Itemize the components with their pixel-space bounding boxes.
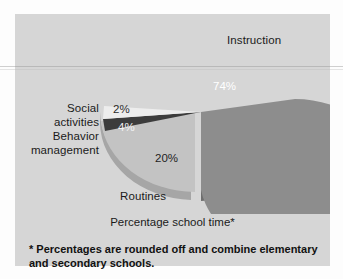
value-label-behavior-management: 4%	[118, 121, 135, 133]
figure-caption: Percentage school time*	[15, 216, 330, 228]
category-label-social-activities: Social activities	[33, 102, 99, 129]
page-canvas: 74% 20% 4% 2% Instruction Social activit…	[0, 0, 343, 279]
category-label-social-activities-line1: Social	[67, 102, 99, 114]
category-label-behavior-management: Behavior management	[17, 130, 99, 157]
category-label-routines: Routines	[120, 190, 166, 204]
value-label-routines: 20%	[155, 152, 178, 164]
slice-instruction	[201, 99, 330, 214]
category-label-instruction: Instruction	[227, 34, 281, 48]
figure-footnote: * Percentages are rounded off and combin…	[29, 242, 321, 270]
category-label-behavior-management-line1: Behavior	[53, 130, 99, 142]
value-label-instruction: 74%	[213, 80, 236, 92]
category-label-behavior-management-line2: management	[31, 144, 99, 156]
pie-chart-figure: 74% 20% 4% 2% Instruction Social activit…	[15, 14, 330, 266]
category-label-social-activities-line2: activities	[54, 116, 99, 128]
value-label-social-activities: 2%	[113, 103, 130, 115]
